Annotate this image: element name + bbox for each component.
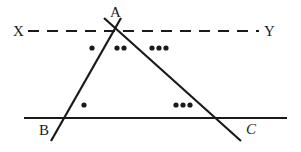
- line-AB: [51, 18, 121, 141]
- angle-mark-dot: [89, 45, 94, 50]
- angle-mark-dot: [114, 45, 119, 50]
- vertex-label-a: A: [110, 5, 121, 20]
- line-AC: [104, 18, 241, 141]
- angle-mark-dot: [180, 102, 185, 107]
- angle-mark-dot: [173, 102, 178, 107]
- angle-mark-dot: [121, 45, 126, 50]
- angle-mark-dot: [187, 102, 192, 107]
- mark-angle-XAB: [89, 45, 94, 50]
- angle-mark-dot: [163, 45, 168, 50]
- mark-angle-BAC: [114, 45, 126, 50]
- vertex-label-y: Y: [264, 24, 275, 39]
- vertex-label-b: B: [39, 123, 49, 138]
- geometry-figure: A X Y B C: [0, 0, 301, 152]
- mark-angle-ABC: [81, 102, 86, 107]
- angle-mark-dot: [81, 102, 86, 107]
- angle-mark-dot: [149, 45, 154, 50]
- mark-angle-ACB: [173, 102, 192, 107]
- angle-mark-dot: [156, 45, 161, 50]
- vertex-label-c: C: [246, 122, 256, 137]
- vertex-label-x: X: [13, 24, 24, 39]
- mark-angle-CAY: [149, 45, 168, 50]
